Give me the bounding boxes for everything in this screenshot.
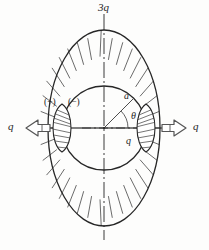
hatch-lines-lower-lobe <box>41 139 160 226</box>
label-positive-sign: (+) <box>44 98 56 108</box>
right-force-arrow <box>162 120 186 136</box>
label-center-charge: q <box>126 136 131 146</box>
label-left-force-q: q <box>8 121 14 132</box>
figure-container: 3q a θ q q q (+) (−) <box>0 0 209 250</box>
label-right-force-q: q <box>193 121 199 132</box>
label-radius-a: a <box>124 91 129 101</box>
diagram-svg <box>0 0 209 250</box>
theta-arc <box>121 111 128 128</box>
center-point <box>103 127 105 129</box>
left-lens-outline <box>53 104 71 152</box>
right-lens-outline <box>137 104 155 152</box>
label-negative-sign: (−) <box>68 98 80 108</box>
left-force-arrow <box>26 120 50 136</box>
label-angle-theta: θ <box>131 111 136 121</box>
left-lens-region <box>48 104 76 154</box>
right-lens-region <box>132 104 160 154</box>
label-top-charge: 3q <box>98 2 109 13</box>
radius-line-a <box>104 98 134 128</box>
